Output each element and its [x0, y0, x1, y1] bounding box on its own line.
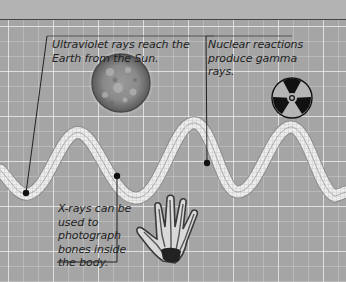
wave-ribbon — [0, 123, 346, 198]
diagram-canvas: Ultraviolet rays reach the Earth from th… — [0, 0, 346, 282]
radiation-icon — [272, 78, 312, 118]
nuclear-caption: Nuclear reactions produce gamma rays. — [208, 38, 308, 79]
xray-caption: X-rays can be used to photograph bones i… — [58, 202, 138, 270]
uv-caption: Ultraviolet rays reach the Earth from th… — [52, 38, 212, 65]
xray-hand-icon — [137, 195, 198, 263]
